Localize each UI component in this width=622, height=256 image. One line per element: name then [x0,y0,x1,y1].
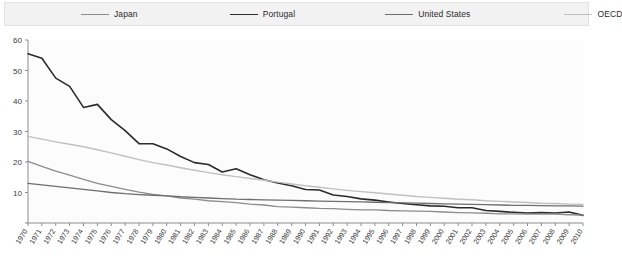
x-axis-labels: 1970197119721973197419751976197719781979… [13,227,584,246]
x-tick-label: 2006 [513,227,529,246]
x-tick-label: 1990 [291,227,307,246]
x-tick-label: 1991 [305,227,321,246]
x-tick-label: 1998 [402,227,418,246]
y-axis-labels: 102030405060 [13,36,22,198]
x-tick-label: 1979 [138,227,154,246]
x-tick-label: 1999 [416,227,432,246]
x-tick-label: 1983 [194,227,210,246]
x-axis-ticks [28,223,583,226]
x-tick-label: 1971 [27,227,43,246]
chart-plot-area: 102030405060 197019711972197319741975197… [0,26,591,256]
y-tick-label: 20 [13,158,22,167]
legend-item-japan[interactable]: Japan [81,9,138,19]
x-tick-label: 2003 [471,227,487,246]
legend-label-japan: Japan [114,9,138,19]
line-chart-svg: 102030405060 197019711972197319741975197… [0,26,591,256]
x-tick-label: 1997 [388,227,404,246]
y-tick-label: 30 [13,128,22,137]
x-tick-label: 2001 [444,227,460,246]
y-tick-label: 50 [13,67,22,76]
x-tick-label: 1981 [166,227,182,246]
x-tick-label: 2005 [499,227,515,246]
x-tick-label: 2007 [527,227,543,246]
x-tick-label: 1976 [97,227,113,246]
x-tick-label: 1970 [13,227,29,246]
legend-label-oecd: OECD [597,9,622,19]
x-tick-label: 2000 [430,227,446,246]
x-tick-label: 1985 [222,227,238,246]
y-tick-label: 60 [13,36,22,45]
legend-swatch-oecd [564,14,592,15]
x-tick-label: 2009 [555,227,571,246]
legend-item-united-states[interactable]: United States [385,9,470,19]
legend-swatch-portugal [230,14,258,15]
x-tick-label: 1988 [263,227,279,246]
x-tick-label: 1982 [180,227,196,246]
legend-item-oecd[interactable]: OECD [564,9,622,19]
x-tick-label: 1986 [235,227,251,246]
x-tick-label: 1993 [333,227,349,246]
x-tick-label: 1975 [83,227,99,246]
x-tick-label: 1978 [124,227,140,246]
legend-label-united-states: United States [418,9,470,19]
legend-label-portugal: Portugal [263,9,295,19]
x-tick-label: 2010 [568,227,584,246]
plot-background [28,40,583,223]
x-tick-label: 1984 [208,227,224,246]
x-tick-label: 1974 [69,227,85,246]
legend-swatch-united-states [385,14,413,15]
x-tick-label: 1996 [374,227,390,246]
legend-swatch-japan [81,14,109,15]
legend-item-portugal[interactable]: Portugal [230,9,295,19]
x-tick-label: 2004 [485,227,501,246]
x-tick-label: 1994 [346,227,362,246]
y-tick-label: 10 [13,189,22,198]
x-tick-label: 2008 [541,227,557,246]
chart-legend: Japan Portugal United States OECD [4,2,589,26]
x-tick-label: 1987 [249,227,265,246]
x-tick-label: 1972 [41,227,57,246]
x-tick-label: 1995 [360,227,376,246]
x-tick-label: 1992 [319,227,335,246]
x-tick-label: 2002 [457,227,473,246]
x-tick-label: 1989 [277,227,293,246]
y-tick-label: 40 [13,97,22,106]
x-tick-label: 1973 [55,227,71,246]
x-tick-label: 1980 [152,227,168,246]
x-tick-label: 1977 [111,227,127,246]
